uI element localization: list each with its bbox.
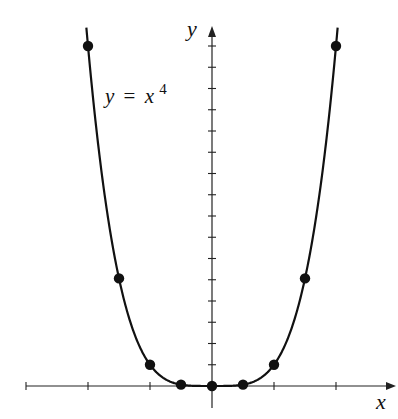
annotation-lhs: y: [103, 84, 115, 108]
data-point: [331, 41, 341, 51]
data-point: [83, 41, 93, 51]
data-point: [114, 273, 124, 283]
data-point: [269, 360, 279, 370]
annotation-base: x: [144, 84, 155, 108]
annotation-equals: =: [124, 84, 136, 108]
data-point: [207, 381, 217, 391]
data-point: [238, 379, 248, 389]
annotation-exponent: 4: [159, 81, 167, 97]
data-point: [300, 273, 310, 283]
y-axis-arrow-icon: [208, 26, 216, 37]
data-point: [176, 379, 186, 389]
y-axis-label: y: [185, 16, 197, 41]
labels: x y y = x 4: [103, 16, 386, 414]
chart-plot: x y y = x 4: [0, 0, 398, 419]
function-annotation: y = x 4: [103, 81, 167, 108]
x-axis-arrow-icon: [386, 382, 396, 390]
x-axis-label: x: [375, 389, 386, 414]
data-point: [145, 360, 155, 370]
axes: [26, 26, 396, 408]
